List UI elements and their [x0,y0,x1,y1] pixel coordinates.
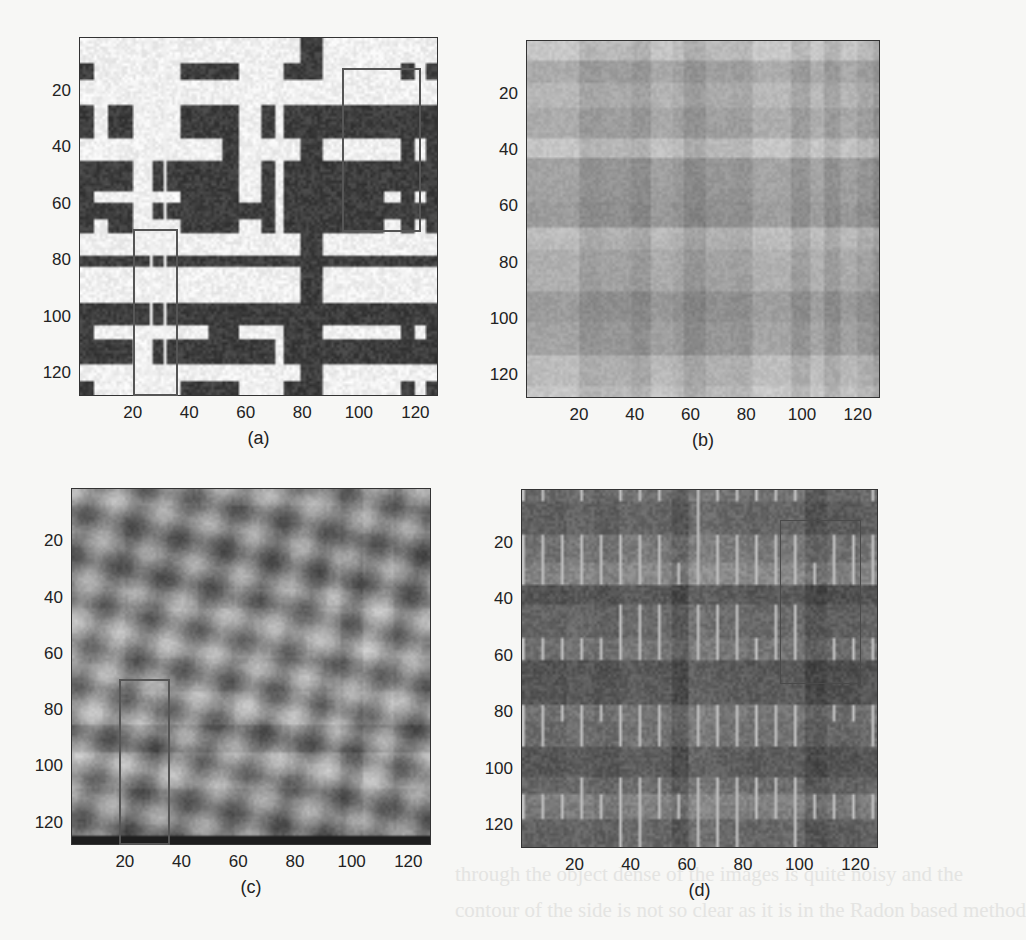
x-tick-label: 20 [552,856,596,873]
panel-caption-d: (d) [670,880,730,901]
x-tick-label: 20 [557,406,601,423]
y-tick-label: 60 [27,195,71,212]
y-tick-label: 120 [469,816,513,833]
x-tick-label: 80 [724,406,768,423]
x-tick-label: 40 [613,406,657,423]
y-tick-label: 60 [19,645,63,662]
y-tick-label: 80 [19,701,63,718]
image-plot-b [526,40,880,398]
y-tick-label: 60 [474,197,518,214]
x-tick-label: 80 [721,856,765,873]
x-tick-label: 120 [393,404,437,421]
x-tick-label: 20 [103,853,147,870]
y-tick-label: 20 [469,534,513,551]
panel-caption-b: (b) [673,430,733,451]
y-tick-label: 60 [469,647,513,664]
intensity-map-a [80,38,437,395]
x-tick-label: 120 [834,856,878,873]
x-tick-label: 40 [609,856,653,873]
bleed-through-text-2: contour of the side is not so clear as i… [455,898,1026,923]
panel-caption-a: (a) [229,428,289,449]
x-tick-label: 120 [836,406,880,423]
y-tick-label: 80 [474,254,518,271]
y-tick-label: 40 [474,141,518,158]
y-tick-label: 120 [474,366,518,383]
y-tick-label: 20 [27,82,71,99]
y-tick-label: 120 [27,364,71,381]
y-tick-label: 120 [19,814,63,831]
intensity-map-b [527,41,879,397]
y-tick-label: 20 [19,532,63,549]
panel-caption-c: (c) [221,877,281,898]
y-tick-label: 40 [469,590,513,607]
y-tick-label: 80 [27,251,71,268]
intensity-map-c [72,489,430,844]
x-tick-label: 100 [330,853,374,870]
y-tick-label: 20 [474,85,518,102]
x-tick-label: 100 [777,856,821,873]
x-tick-label: 60 [665,856,709,873]
intensity-map-d [522,490,877,847]
x-tick-label: 60 [224,404,268,421]
x-tick-label: 40 [160,853,204,870]
x-tick-label: 20 [111,404,155,421]
x-tick-label: 80 [280,404,324,421]
y-tick-label: 100 [19,757,63,774]
x-tick-label: 60 [668,406,712,423]
image-plot-d [521,489,878,848]
image-plot-c [71,488,431,845]
x-tick-label: 40 [167,404,211,421]
x-tick-label: 60 [216,853,260,870]
x-tick-label: 80 [273,853,317,870]
image-plot-a [79,37,438,396]
y-tick-label: 100 [474,310,518,327]
x-tick-label: 100 [337,404,381,421]
x-tick-label: 100 [780,406,824,423]
x-tick-label: 120 [386,853,430,870]
y-tick-label: 100 [469,760,513,777]
y-tick-label: 40 [19,589,63,606]
y-tick-label: 100 [27,308,71,325]
y-tick-label: 40 [27,138,71,155]
y-tick-label: 80 [469,703,513,720]
